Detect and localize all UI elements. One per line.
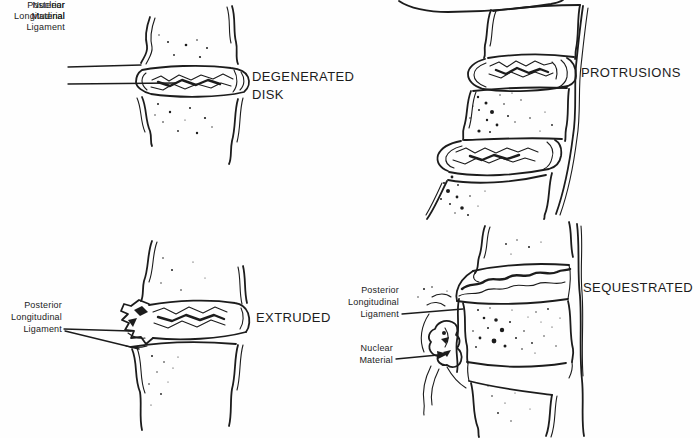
- label-line: Ligament: [0, 22, 65, 33]
- sequestrated-drawing: [396, 222, 584, 437]
- label-line: Longitudinal: [0, 311, 62, 323]
- label-line: Ligament: [0, 323, 62, 335]
- nuclear-material-arrow-line: [396, 355, 438, 359]
- extruded-title: EXTRUDED: [256, 311, 331, 325]
- disc-pathology-diagram: Posterior Longitudinal Ligament Nuclear …: [0, 0, 700, 438]
- label-line: Material: [340, 354, 393, 366]
- extruded-drawing: [64, 241, 249, 430]
- label-line: Nuclear: [0, 0, 65, 11]
- label-line: Posterior: [340, 284, 399, 296]
- pll-leader-line: [402, 309, 463, 314]
- label-line: Nuclear: [340, 342, 393, 354]
- title-line: DEGENERATED: [252, 68, 354, 86]
- degenerated-disk-title: DEGENERATED DISK: [252, 68, 354, 104]
- label-line: Material: [0, 11, 65, 22]
- nuclear-material-label-sequestrated: Nuclear Material: [340, 342, 393, 366]
- sequestrated-title: SEQUESTRATED: [583, 281, 693, 295]
- pll-label-extruded: Posterior Longitudinal Ligament: [0, 299, 62, 335]
- title-line: DISK: [252, 86, 354, 104]
- label-line: Ligament: [340, 308, 399, 320]
- label-line: Longitudinal: [340, 296, 399, 308]
- degenerated-disk-drawing: [68, 6, 249, 164]
- protrusions-drawing: [399, 0, 588, 219]
- pll-leader-line: [68, 65, 141, 67]
- pll-label-sequestrated: Posterior Longitudinal Ligament: [340, 284, 399, 320]
- pll-leader-line-lower: [65, 331, 139, 349]
- pll-leader-line-upper: [64, 329, 131, 331]
- protrusions-title: PROTRUSIONS: [581, 66, 681, 80]
- label-line: Posterior: [0, 299, 62, 311]
- nuclear-material-label-degenerated: Nuclear Material: [0, 0, 65, 22]
